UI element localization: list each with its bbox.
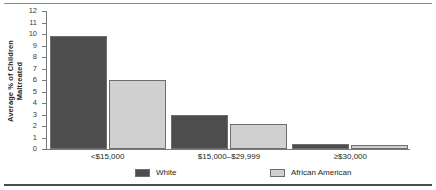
top-divider-rule [4,3,432,4]
y-axis-tick: 12 [42,11,46,12]
chart-legend: WhiteAfrican American [0,169,436,181]
y-axis-tick-label: 3 [33,111,37,119]
legend-item[interactable]: African American [270,169,351,177]
x-axis-category-labels: <$15,000$15,000–$29,999≥$30,000 [46,153,410,165]
bar [292,144,349,149]
bar [351,145,408,149]
legend-swatch-icon [270,169,285,177]
y-axis-tick: 10 [42,34,46,35]
legend-label: African American [291,169,351,177]
x-axis-line [46,149,410,150]
y-axis-tick: 0 [42,149,46,150]
y-axis-tick: 7 [42,69,46,70]
y-axis-tick: 4 [42,103,46,104]
y-axis-tick: 3 [42,115,46,116]
bar-series-group [47,11,410,149]
y-axis-title-line2: Maltreated [15,62,24,101]
y-axis-tick-label: 8 [33,53,37,61]
y-axis-tick-label: 0 [33,145,37,153]
bar [230,124,287,149]
y-axis-tick-label: 9 [33,42,37,50]
y-axis-tick: 5 [42,92,46,93]
y-axis-tick-label: 5 [33,88,37,96]
y-axis-title: Average % of Children Maltreated [2,12,28,150]
y-axis-tick: 8 [42,57,46,58]
y-axis-tick-label: 2 [33,122,37,130]
y-axis-tick-label: 11 [29,19,37,27]
y-axis-tick: 2 [42,126,46,127]
y-axis-tick: 11 [42,23,46,24]
y-axis-title-text: Average % of Children Maltreated [6,40,24,122]
y-axis-tick-label: 7 [33,65,37,73]
bottom-divider-rule [4,184,432,186]
y-axis-tick: 1 [42,138,46,139]
y-axis-tick-label: 10 [29,30,37,38]
chart-figure: Average % of Children Maltreated 0123456… [0,0,436,190]
x-axis-category-label: ≥$30,000 [334,153,367,161]
x-axis-category-label: $15,000–$29,999 [198,153,260,161]
x-axis-category-label: <$15,000 [91,153,125,161]
legend-swatch-icon [135,169,150,177]
legend-item[interactable]: White [135,169,176,177]
y-axis-tick: 6 [42,80,46,81]
y-axis-tick: 9 [42,46,46,47]
y-axis-tick-label: 6 [33,76,37,84]
y-axis-tick-label: 4 [33,99,37,107]
legend-label: White [156,169,176,177]
bar [171,115,228,150]
y-axis-title-line1: Average % of Children [6,40,15,122]
y-axis-tick-label: 12 [29,7,37,15]
bar [109,80,166,149]
y-axis-tick-label: 1 [33,134,37,142]
bar [50,36,107,149]
plot-area: 0123456789101112 [46,11,410,150]
